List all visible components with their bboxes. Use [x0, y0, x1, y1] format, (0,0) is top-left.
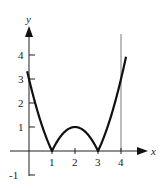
y-ticks	[29, 55, 35, 175]
function-curve	[27, 57, 126, 151]
x-tick-label-3: 3	[95, 156, 101, 168]
x-tick-label-4: 4	[118, 156, 124, 168]
x-tick-label-1: 1	[49, 156, 55, 168]
x-axis-arrow-icon	[137, 147, 148, 155]
y-axis-label: y	[25, 13, 31, 25]
function-plot: x y 1 2 3 4 -1 1 2 3 4	[0, 0, 166, 188]
y-tick-label-4: 4	[18, 49, 24, 61]
y-tick-label-neg1: -1	[9, 169, 18, 181]
y-tick-label-3: 3	[18, 73, 24, 85]
y-tick-label-1: 1	[18, 121, 24, 133]
y-tick-label-2: 2	[18, 97, 24, 109]
y-axis-arrow-icon	[25, 26, 33, 37]
x-tick-label-2: 2	[72, 156, 78, 168]
x-axis-label: x	[150, 145, 156, 157]
